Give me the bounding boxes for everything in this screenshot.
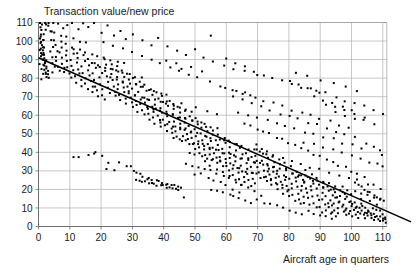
data-point <box>84 51 86 53</box>
data-point <box>166 123 168 125</box>
data-point <box>188 143 190 145</box>
data-point <box>113 35 115 37</box>
data-point <box>285 169 287 171</box>
data-point <box>324 203 326 205</box>
data-point <box>341 151 343 153</box>
data-point <box>267 119 269 121</box>
data-point <box>92 72 94 74</box>
data-point <box>70 65 72 67</box>
data-point <box>379 215 381 217</box>
data-point <box>333 82 335 84</box>
data-point <box>187 138 189 140</box>
data-point <box>272 154 274 156</box>
data-point <box>123 76 125 78</box>
data-point <box>41 44 43 46</box>
data-point <box>125 103 127 105</box>
data-point <box>250 166 252 168</box>
data-point <box>153 123 155 125</box>
data-point <box>42 49 44 51</box>
data-point <box>276 170 278 172</box>
data-point <box>373 219 375 221</box>
data-point <box>256 117 258 119</box>
data-point <box>364 207 366 209</box>
data-point <box>115 69 117 71</box>
data-point <box>65 36 67 38</box>
data-point <box>318 199 320 201</box>
data-point <box>173 108 175 110</box>
data-point <box>44 62 46 64</box>
data-point <box>43 33 45 35</box>
data-point <box>125 98 127 100</box>
data-point <box>101 155 103 157</box>
data-point <box>232 95 234 97</box>
data-point <box>135 179 137 181</box>
data-point <box>303 142 305 144</box>
data-point <box>140 99 142 101</box>
data-point <box>39 49 41 51</box>
data-point <box>52 46 54 48</box>
data-point <box>359 207 361 209</box>
data-point <box>202 143 204 145</box>
data-point <box>311 195 313 197</box>
data-point <box>360 147 362 149</box>
data-point <box>65 43 67 45</box>
data-point <box>367 215 369 217</box>
data-point <box>110 68 112 70</box>
data-point <box>269 174 271 176</box>
data-point <box>112 68 114 70</box>
data-point <box>97 95 99 97</box>
data-point <box>339 195 341 197</box>
data-point <box>185 109 187 111</box>
data-point <box>179 138 181 140</box>
data-point <box>341 143 343 145</box>
data-point <box>181 140 183 142</box>
y-tick-label: 20 <box>21 184 33 195</box>
data-point <box>39 63 41 65</box>
data-point <box>333 202 335 204</box>
data-point <box>288 195 290 197</box>
data-point <box>197 143 199 145</box>
data-point <box>344 115 346 117</box>
data-point <box>235 149 237 151</box>
data-point <box>269 110 271 112</box>
data-point <box>284 125 286 127</box>
data-point <box>158 180 160 182</box>
data-point <box>39 38 41 40</box>
data-point <box>345 214 347 216</box>
data-point <box>267 170 269 172</box>
data-point <box>203 148 205 150</box>
data-point <box>316 188 318 190</box>
data-point <box>240 184 242 186</box>
data-point <box>252 178 254 180</box>
data-point <box>230 153 232 155</box>
data-point <box>325 215 327 217</box>
data-point <box>235 181 237 183</box>
data-point <box>338 125 340 127</box>
data-point <box>197 140 199 142</box>
data-point <box>165 103 167 105</box>
data-point <box>281 138 283 140</box>
data-point <box>225 165 227 167</box>
data-point <box>232 89 234 91</box>
data-point <box>253 148 255 150</box>
data-point <box>117 61 119 63</box>
data-point <box>289 115 291 117</box>
data-point <box>201 139 203 141</box>
data-point <box>94 151 96 153</box>
data-point <box>51 31 53 33</box>
data-point <box>331 204 333 206</box>
data-point <box>234 62 236 64</box>
data-point <box>172 114 174 116</box>
data-point <box>192 143 194 145</box>
data-point <box>49 50 51 52</box>
data-point <box>296 186 298 188</box>
data-point <box>232 174 234 176</box>
data-point <box>190 131 192 133</box>
data-point <box>356 178 358 180</box>
data-point <box>63 71 65 73</box>
data-point <box>151 59 153 61</box>
data-point <box>353 209 355 211</box>
data-point <box>368 162 370 164</box>
data-point <box>373 184 375 186</box>
data-point <box>222 152 224 154</box>
